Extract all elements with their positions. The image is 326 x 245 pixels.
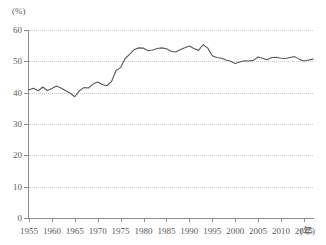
x-axis-tick-mark [235,218,236,222]
x-axis-tick-label: 1985 [157,226,175,236]
x-axis-tick-label: 1980 [135,226,153,236]
x-axis-line [28,218,314,219]
x-axis-tick-label: 1960 [43,226,61,236]
series-canvas [29,30,313,218]
x-axis-tick-label: 1990 [180,226,198,236]
y-axis-tick-label: 20 [0,151,22,160]
x-axis-tick-mark [98,218,99,222]
y-axis-tick-label: 0 [0,214,22,223]
x-axis-tick-mark [212,218,213,222]
x-axis-tick-label: 1965 [66,226,84,236]
x-axis-tick-label: 2010 [272,226,290,236]
y-axis-tick-label: 50 [0,57,22,66]
x-axis-tick-mark [258,218,259,222]
y-axis-tick-label: 10 [0,183,22,192]
x-axis-tick-mark [29,218,30,222]
x-axis-tick-label: 1955 [20,226,38,236]
y-axis-tick-label: 60 [0,26,22,35]
x-axis-tick-mark [144,218,145,222]
x-axis-tick-label: 2005 [249,226,267,236]
x-axis-tick-mark [166,218,167,222]
x-axis-tick-mark [75,218,76,222]
plot-area [29,30,313,218]
y-axis-tick-label: 40 [0,89,22,98]
x-axis-unit-label: (年) [300,226,315,236]
y-axis-tick-label: 30 [0,120,22,129]
x-axis-tick-mark [304,218,305,222]
x-axis-tick-label: 1995 [203,226,221,236]
x-axis-tick-mark [52,218,53,222]
x-axis-tick-mark [121,218,122,222]
line-chart: (%) 0102030405060 1955196019651970197519… [0,0,326,245]
x-axis-tick-label: 1975 [112,226,130,236]
x-axis-tick-mark [189,218,190,222]
series-line [29,45,313,97]
x-axis-tick-label: 2000 [226,226,244,236]
x-axis-tick-label: 1970 [89,226,107,236]
x-axis-tick-mark [281,218,282,222]
y-axis-unit-label: (%) [12,6,26,16]
